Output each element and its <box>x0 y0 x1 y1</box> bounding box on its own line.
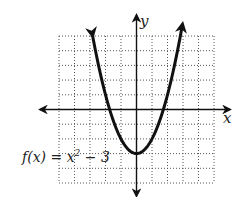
function-label-suffix: − 3 <box>80 149 110 165</box>
function-label: f(x) = x2 − 3 <box>21 148 110 165</box>
y-axis-label: y <box>139 12 149 30</box>
x-axis-label: x <box>223 109 232 127</box>
function-label-prefix: f(x) = x <box>21 149 75 165</box>
parabola-curve <box>92 26 182 154</box>
function-graph: x y f(x) = x2 − 3 <box>0 0 244 197</box>
